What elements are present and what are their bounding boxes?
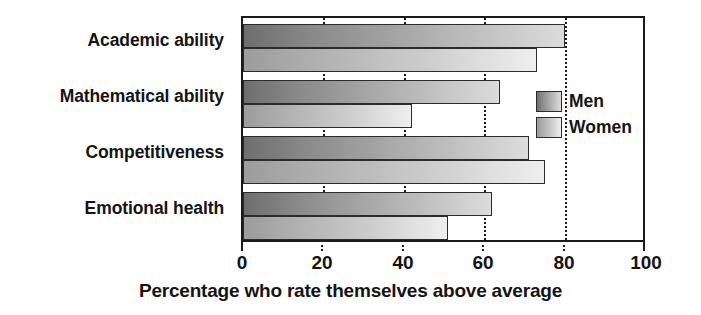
x-tick-40 (402, 240, 404, 251)
bar-women-academic-ability[interactable] (243, 48, 537, 72)
bar-chart: Academic ability Mathematical ability Co… (0, 0, 701, 315)
bar-men-emotional-health[interactable] (243, 192, 492, 216)
legend-item-women[interactable]: Women (536, 114, 656, 140)
x-tick-20 (321, 240, 323, 251)
bar-men-competitiveness[interactable] (243, 136, 529, 160)
x-tick-label-100: 100 (630, 252, 662, 274)
x-tick-100 (643, 240, 645, 251)
legend-label-women: Women (569, 117, 632, 138)
category-label-emotional-health: Emotional health (0, 198, 224, 219)
legend: Men Women (536, 88, 656, 140)
category-label-mathematical-ability: Mathematical ability (0, 86, 224, 107)
x-tick-label-20: 20 (311, 252, 332, 274)
x-tick-label-80: 80 (553, 252, 574, 274)
category-axis-labels: Academic ability Mathematical ability Co… (0, 12, 232, 240)
x-tick-0 (241, 240, 243, 251)
legend-swatch-women-icon (536, 117, 562, 138)
x-tick-80 (563, 240, 565, 251)
bar-men-academic-ability[interactable] (243, 24, 565, 48)
legend-label-men: Men (569, 91, 604, 112)
x-tick-label-60: 60 (472, 252, 493, 274)
category-label-competitiveness: Competitiveness (0, 142, 224, 163)
x-tick-label-0: 0 (237, 252, 248, 274)
legend-item-men[interactable]: Men (536, 88, 656, 114)
bar-women-competitiveness[interactable] (243, 160, 545, 184)
x-tick-60 (482, 240, 484, 251)
bar-women-emotional-health[interactable] (243, 216, 448, 240)
category-label-academic-ability: Academic ability (0, 30, 224, 51)
bar-women-mathematical-ability[interactable] (243, 104, 412, 128)
x-axis-title: Percentage who rate themselves above ave… (0, 280, 701, 302)
x-tick-label-40: 40 (392, 252, 413, 274)
legend-swatch-men-icon (536, 91, 562, 112)
x-axis-line (241, 240, 645, 242)
bar-men-mathematical-ability[interactable] (243, 80, 500, 104)
